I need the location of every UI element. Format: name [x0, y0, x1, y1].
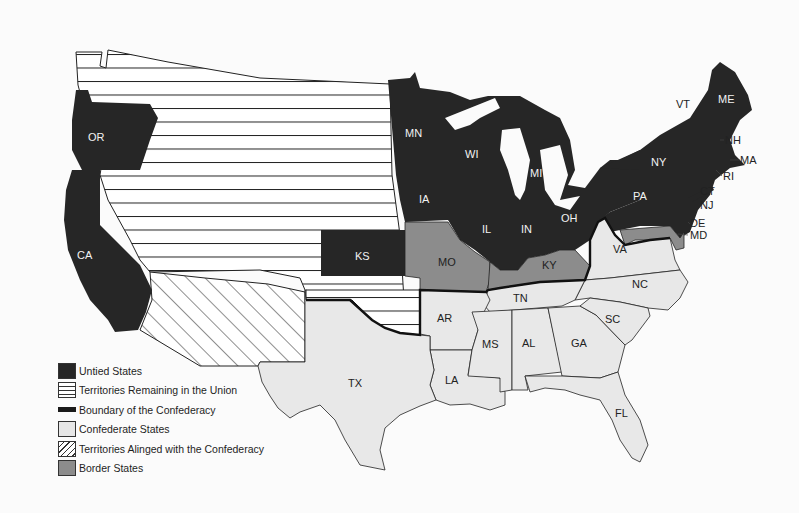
legend-item-boundary: Boundary of the Confederacy [58, 400, 264, 420]
label-sc: SC [605, 313, 620, 325]
label-nc: NC [632, 278, 648, 290]
swatch-confederate-icon [58, 421, 76, 437]
label-oh: OH [561, 212, 578, 224]
label-nj: NJ [700, 199, 713, 211]
label-mn: MN [405, 127, 422, 139]
label-in: IN [521, 223, 532, 235]
legend-label: Untied States [79, 365, 142, 377]
label-ma: MA [740, 154, 757, 166]
legend-label: Border States [79, 462, 143, 474]
label-de: DE [690, 217, 705, 229]
label-ny: NY [651, 156, 667, 168]
label-ms: MS [482, 338, 499, 350]
swatch-diagonal-stripes-icon [58, 441, 76, 457]
label-me: ME [718, 93, 735, 105]
territories-confederate [140, 272, 305, 366]
swatch-union-icon [58, 363, 76, 379]
label-fl: FL [615, 407, 628, 419]
label-ga: GA [571, 337, 588, 349]
legend-item-union: Untied States [58, 361, 264, 381]
legend-label: Confederate States [79, 423, 169, 435]
label-ia: IA [419, 193, 430, 205]
label-ct: CT [700, 185, 715, 197]
legend-item-confederate: Confederate States [58, 420, 264, 440]
legend-label: Boundary of the Confederacy [79, 404, 216, 416]
label-or: OR [88, 131, 105, 143]
label-pa: PA [633, 190, 648, 202]
label-ca: CA [77, 249, 93, 261]
swatch-border-states-icon [58, 460, 76, 476]
label-tn: TN [513, 292, 528, 304]
label-tx: TX [348, 377, 363, 389]
state-fl [525, 372, 648, 462]
legend-label: Territories Remaining in the Union [79, 384, 237, 396]
label-wi: WI [465, 148, 478, 160]
legend-item-territory-union: Territories Remaining in the Union [58, 381, 264, 401]
label-ks: KS [355, 250, 370, 262]
label-nh: NH [725, 134, 741, 146]
label-al: AL [522, 337, 535, 349]
label-va: VA [613, 243, 628, 255]
swatch-horizontal-stripes-icon [58, 382, 76, 398]
label-md: MD [690, 229, 707, 241]
legend-label: Territories Alinged with the Confederacy [79, 443, 264, 455]
label-mi: MI [530, 167, 542, 179]
map-legend: Untied States Territories Remaining in t… [58, 361, 264, 478]
state-union-northeast [595, 62, 752, 238]
swatch-boundary-line-icon [58, 407, 76, 412]
label-mo: MO [438, 256, 456, 268]
legend-item-territory-confederate: Territories Alinged with the Confederacy [58, 439, 264, 459]
label-la: LA [445, 374, 459, 386]
label-ky: KY [542, 259, 557, 271]
label-il: IL [482, 223, 491, 235]
label-ar: AR [437, 312, 452, 324]
label-ri: RI [723, 170, 734, 182]
legend-item-border: Border States [58, 459, 264, 479]
label-vt: VT [676, 98, 690, 110]
